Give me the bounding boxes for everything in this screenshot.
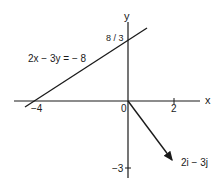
y-tick-label-neg3: −3 [112,163,124,174]
y-axis-label: y [124,10,130,22]
origin-label: 0 [121,103,127,114]
y-tick-label-8-3: 8 / 3 [106,33,124,43]
x-tick-label-2: 2 [171,103,177,114]
coordinate-diagram: y x 0 2 −4 8 / 3 −3 2x − 3y = − 8 2i − 3… [0,0,223,187]
vector-2i-3j [128,101,172,160]
x-axis-label: x [205,94,211,106]
line-equation-label: 2x − 3y = − 8 [28,53,87,64]
x-tick-label-neg4: −4 [31,103,43,114]
vector-label: 2i − 3j [181,157,208,168]
line-2x-3y-eq-neg8 [25,28,147,107]
